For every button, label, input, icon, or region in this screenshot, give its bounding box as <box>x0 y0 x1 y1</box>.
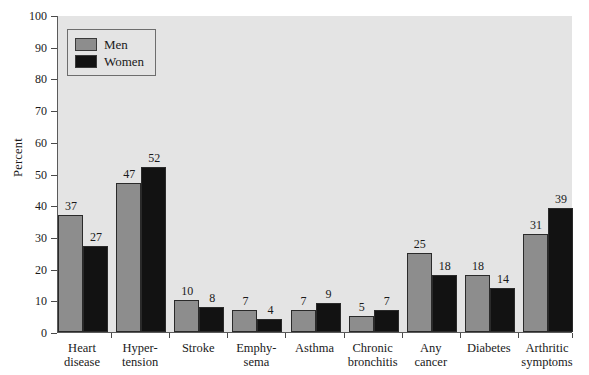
bar-women[interactable] <box>257 319 282 332</box>
bar-women[interactable] <box>141 167 166 332</box>
x-axis-tick-mark <box>402 333 403 338</box>
bar-men[interactable] <box>174 300 199 332</box>
x-axis-label-line: sema <box>213 355 299 369</box>
x-axis-tick-mark <box>344 333 345 338</box>
x-axis-label-line: cancer <box>388 355 474 369</box>
x-axis-label-line: symptoms <box>504 355 589 369</box>
y-axis-tick-label: 50 <box>7 169 47 181</box>
bar-value-label: 52 <box>137 152 171 164</box>
bar-group: 57 <box>349 16 399 332</box>
legend-label: Women <box>104 55 144 68</box>
x-axis-tick-mark <box>285 333 286 338</box>
bar-group: 108 <box>174 16 224 332</box>
bar-women[interactable] <box>316 303 341 332</box>
legend-item-women[interactable]: Women <box>75 53 144 69</box>
bar-women[interactable] <box>374 310 399 332</box>
legend: MenWomen <box>67 29 156 76</box>
legend-item-men[interactable]: Men <box>75 36 144 52</box>
bar-value-label: 14 <box>486 273 520 285</box>
y-axis-tick-label: 70 <box>7 105 47 117</box>
bar-value-label: 18 <box>428 260 462 272</box>
bar-value-label: 9 <box>312 288 346 300</box>
bar-group: 74 <box>232 16 282 332</box>
x-axis-tick-mark <box>227 333 228 338</box>
y-axis-tick-mark <box>51 333 57 334</box>
bar-value-label: 8 <box>195 292 229 304</box>
y-axis-tick-label: 20 <box>7 264 47 276</box>
bar-value-label: 7 <box>370 295 404 307</box>
y-axis-tick-label: 0 <box>7 327 47 339</box>
y-axis-tick-label: 10 <box>7 295 47 307</box>
bar-chart: Percent 1009080706050403020100 372747521… <box>0 0 589 375</box>
x-axis-label-line: Arthritic <box>504 341 589 355</box>
bar-group: 3139 <box>523 16 573 332</box>
x-axis-label: Arthriticsymptoms <box>504 341 589 369</box>
bar-value-label: 4 <box>253 304 287 316</box>
y-axis-tick-label: 40 <box>7 200 47 212</box>
women-swatch-icon <box>75 55 97 68</box>
bar-men[interactable] <box>523 234 548 332</box>
bar-value-label: 37 <box>54 200 88 212</box>
x-axis-tick-mark <box>572 333 573 338</box>
bar-group: 1814 <box>465 16 515 332</box>
y-axis-tick-label: 100 <box>7 10 47 22</box>
x-axis-tick-mark <box>169 333 170 338</box>
y-axis-tick-label: 90 <box>7 42 47 54</box>
x-axis-tick-mark <box>460 333 461 338</box>
bar-value-label: 25 <box>403 238 437 250</box>
legend-label: Men <box>104 38 128 51</box>
bar-men[interactable] <box>116 183 141 332</box>
x-axis-label-line: tension <box>97 355 183 369</box>
y-axis: 1009080706050403020100 <box>0 0 57 375</box>
bar-women[interactable] <box>83 246 108 332</box>
x-axis-tick-mark <box>111 333 112 338</box>
y-axis-tick-label: 60 <box>7 137 47 149</box>
x-axis-tick-mark <box>518 333 519 338</box>
bar-women[interactable] <box>548 208 573 332</box>
plot-area: 37274752108747957251818143139 MenWomen <box>57 16 572 333</box>
bar-women[interactable] <box>490 288 515 332</box>
bar-women[interactable] <box>432 275 457 332</box>
y-axis-tick-label: 80 <box>7 73 47 85</box>
y-axis-tick-label: 30 <box>7 232 47 244</box>
bar-value-label: 18 <box>461 260 495 272</box>
bar-men[interactable] <box>291 310 316 332</box>
bar-group: 2518 <box>407 16 457 332</box>
bar-men[interactable] <box>349 316 374 332</box>
men-swatch-icon <box>75 38 97 51</box>
bar-women[interactable] <box>199 307 224 332</box>
bar-group: 79 <box>291 16 341 332</box>
bar-value-label: 39 <box>544 193 578 205</box>
bar-value-label: 27 <box>79 231 113 243</box>
